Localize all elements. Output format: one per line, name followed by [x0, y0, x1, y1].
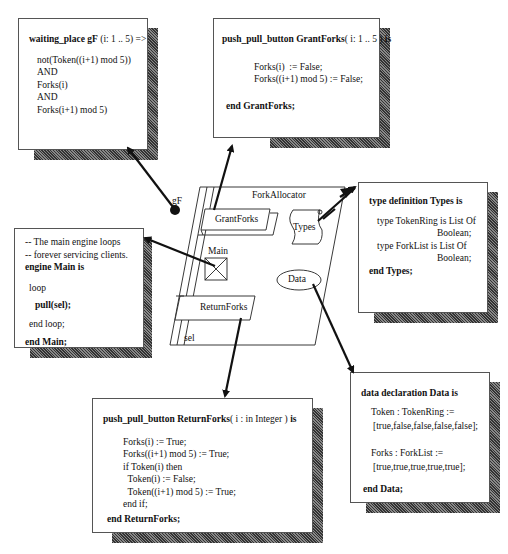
main-engine-label[interactable]: Main: [208, 246, 228, 256]
grant-forks-button-label[interactable]: GrantForks: [215, 214, 258, 224]
sel-label: sel: [184, 333, 195, 343]
gf-label: gF: [172, 196, 182, 206]
component-diagram: [0, 0, 508, 554]
fork-allocator-title: ForkAllocator: [252, 190, 306, 200]
return-forks-button-label[interactable]: ReturnForks: [200, 302, 248, 312]
data-store-label[interactable]: Data: [288, 274, 306, 284]
types-symbol-label[interactable]: Types: [293, 222, 316, 232]
fork-allocator-shape: [170, 187, 345, 345]
arrow-data-to-data-box: [313, 284, 353, 372]
arrow-gf-to-waiting-place: [128, 148, 173, 207]
